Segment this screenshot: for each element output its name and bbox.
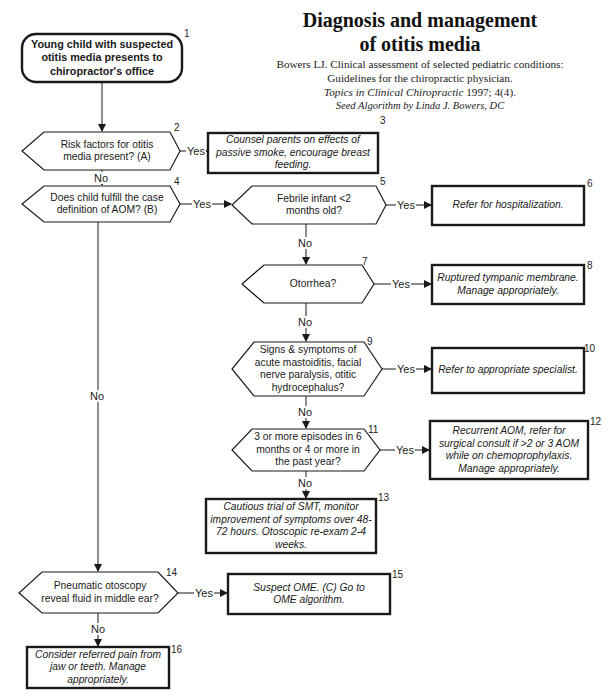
node-16-number: 16	[171, 644, 182, 655]
node-3-number: 3	[380, 115, 386, 126]
edge-4-5-label: Yes	[192, 198, 212, 210]
edge-5-6-label: Yes	[396, 199, 416, 211]
edge-9-10-label: Yes	[396, 363, 416, 375]
edge-11-12-label: Yes	[395, 444, 415, 456]
node-16-text: Consider referred pain from jaw or teeth…	[30, 649, 166, 686]
edge-7-8-label: Yes	[391, 278, 411, 290]
node-4-text: Does child fulfill the case definition o…	[44, 188, 170, 220]
edge-2-3-label: Yes	[186, 145, 206, 157]
node-4-number: 4	[174, 176, 180, 187]
node-5-text: Febrile infant <2 months old?	[260, 188, 368, 222]
edge-5-7-label: No	[297, 237, 313, 249]
node-6-text: Refer for hospitalization.	[436, 188, 580, 223]
node-14-text: Pneumatic otoscopy reveal fluid in middl…	[40, 574, 160, 611]
node-7-number: 7	[362, 256, 368, 267]
node-12-number: 12	[590, 416, 601, 427]
edge-14-16-label: No	[90, 623, 106, 635]
node-2-number: 2	[174, 122, 180, 133]
node-15-text: Suspect OME. (C) Go to OME algorithm.	[250, 576, 368, 612]
edge-7-9-label: No	[297, 316, 313, 328]
node-11-text: 3 or more episodes in 6 months or 4 or m…	[252, 431, 364, 469]
edge-4-14-label: No	[89, 390, 105, 402]
node-8-text: Ruptured tympanic membrane. Manage appro…	[436, 267, 580, 302]
node-14-number: 14	[166, 567, 177, 578]
node-9-number: 9	[367, 336, 373, 347]
node-7-text: Otorrhea?	[264, 267, 362, 301]
edge-2-4-label: No	[93, 172, 109, 184]
node-13-text: Cautious trial of SMT, monitor improveme…	[208, 501, 374, 551]
node-10-text: Refer to appropriate specialist.	[436, 350, 580, 391]
node-12-text: Recurrent AOM, refer for surgical consul…	[434, 423, 584, 477]
node-1-number: 1	[184, 28, 190, 39]
node-11-number: 11	[368, 424, 378, 435]
edge-14-15-label: Yes	[194, 587, 214, 599]
edge-9-11-label: No	[297, 406, 313, 418]
node-2-text: Risk factors for otitis media present? (…	[48, 134, 166, 168]
edge-11-13-label: No	[297, 477, 313, 489]
node-6-number: 6	[587, 178, 593, 189]
node-1-text: Young child with suspected otitis media …	[26, 36, 178, 80]
node-5-number: 5	[380, 176, 386, 187]
node-10-number: 10	[584, 343, 595, 354]
node-9-text: Signs & symptoms of acute mastoiditis, f…	[252, 344, 364, 394]
node-13-number: 13	[378, 492, 389, 503]
node-3-text: Counsel parents on effects of passive sm…	[214, 135, 372, 171]
node-15-number: 15	[392, 569, 403, 580]
node-8-number: 8	[587, 260, 593, 271]
